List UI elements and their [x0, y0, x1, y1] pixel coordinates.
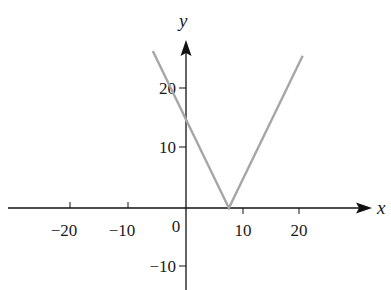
y-tick-label: 10: [159, 138, 176, 157]
x-tick-label: 20: [291, 221, 308, 240]
function-curve: [153, 51, 303, 208]
x-axis-label: x: [376, 197, 386, 218]
y-tick-labels: 20 10 −10: [149, 79, 176, 276]
origin-label: 0: [172, 217, 181, 236]
x-tick-label: 10: [235, 221, 252, 240]
y-axis: y: [177, 10, 192, 290]
chart: x y −20 −10 10 20 0 20 10 −10: [0, 0, 391, 290]
x-axis: x: [8, 197, 386, 218]
y-tick-label: −10: [149, 257, 176, 276]
x-tick-label: −10: [109, 221, 136, 240]
x-tick-label: −20: [51, 221, 78, 240]
y-axis-label: y: [177, 10, 188, 31]
